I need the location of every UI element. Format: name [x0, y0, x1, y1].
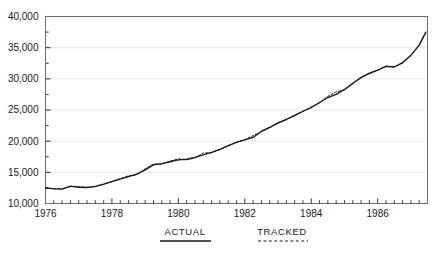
- line-chart: 10,00015,00020,00025,00030,00035,00040,0…: [0, 0, 441, 255]
- series-line-actual: [46, 32, 426, 189]
- y-tick-label: 20,000: [8, 136, 39, 147]
- x-tick-label: 1976: [34, 208, 57, 219]
- x-axis-tick-labels: 197619781980198219841986: [34, 208, 389, 219]
- y-tick-label: 35,000: [8, 42, 39, 53]
- series-line-tracked: [46, 32, 426, 188]
- y-tick-label: 15,000: [8, 167, 39, 178]
- y-tick-label: 30,000: [8, 73, 39, 84]
- x-tick-label: 1986: [367, 208, 390, 219]
- x-tick-label: 1982: [234, 208, 257, 219]
- x-tick-label: 1984: [300, 208, 323, 219]
- y-tick-label: 25,000: [8, 104, 39, 115]
- data-series: [46, 32, 426, 189]
- gridlines: [46, 48, 428, 173]
- chart-container: 10,00015,00020,00025,00030,00035,00040,0…: [0, 0, 441, 255]
- y-axis-ticks: [46, 17, 51, 204]
- y-axis-tick-labels: 10,00015,00020,00025,00030,00035,00040,0…: [8, 11, 39, 209]
- y-tick-label: 40,000: [8, 11, 39, 22]
- x-tick-label: 1978: [101, 208, 124, 219]
- x-axis-ticks: [46, 199, 428, 204]
- x-tick-label: 1980: [167, 208, 190, 219]
